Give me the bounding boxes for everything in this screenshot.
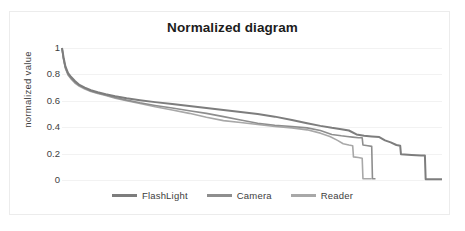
chart-container: Normalized diagram normalized value 10.8…: [0, 0, 465, 231]
plot-area: [62, 48, 442, 180]
gridline: [62, 180, 442, 181]
legend-item[interactable]: Camera: [207, 190, 272, 201]
y-tick-label: 1: [38, 43, 60, 53]
y-tick-label: 0.4: [38, 122, 60, 132]
y-tick-label: 0: [38, 175, 60, 185]
legend-color-swatch: [112, 194, 137, 197]
chart-legend: FlashLightCameraReader: [0, 190, 465, 201]
series-line: [62, 48, 376, 179]
legend-item[interactable]: FlashLight: [112, 190, 188, 201]
y-axis-tick-labels: 10.80.60.40.20: [38, 43, 60, 183]
series-line: [62, 48, 372, 179]
legend-label: Reader: [321, 190, 353, 201]
y-tick-label: 0.6: [38, 96, 60, 106]
legend-color-swatch: [207, 194, 232, 197]
legend-item[interactable]: Reader: [291, 190, 353, 201]
y-axis-title: normalized value: [22, 35, 33, 145]
legend-label: Camera: [237, 190, 272, 201]
y-tick-label: 0.2: [38, 149, 60, 159]
series-line: [62, 48, 442, 179]
chart-title: Normalized diagram: [0, 20, 465, 35]
legend-color-swatch: [291, 194, 316, 197]
legend-label: FlashLight: [142, 190, 188, 201]
y-tick-label: 0.8: [38, 69, 60, 79]
series-lines: [62, 48, 442, 180]
